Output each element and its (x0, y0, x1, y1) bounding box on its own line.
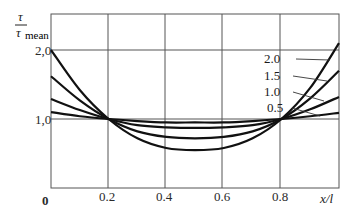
x-tick-0: 0 (42, 193, 49, 208)
x-tick-0-2: 0.2 (99, 189, 115, 204)
grid (51, 14, 339, 188)
y-label-denominator: τ (16, 25, 22, 40)
series-label-0-5: 0.5 (267, 100, 283, 115)
y-label-numerator: τ (18, 9, 24, 24)
x-axis-label: x/l (319, 191, 333, 206)
series-label-1-0: 1.0 (264, 84, 280, 99)
series-label-2-0: 2.0 (264, 51, 280, 66)
series-label-1-5: 1.5 (264, 68, 280, 83)
y-tick-2: 2,0 (35, 43, 51, 58)
x-tick-0-8: 0.8 (272, 189, 288, 204)
chart: 2.0 1.5 1.0 0.5 τ τ mean 2,0 1,0 0 0.2 0… (0, 0, 354, 212)
curves (51, 43, 339, 150)
y-label-subscript: mean (25, 29, 49, 41)
x-tick-0-6: 0.6 (214, 189, 231, 204)
x-tick-0-4: 0.4 (156, 189, 173, 204)
plot-frame (51, 14, 339, 188)
curve-2-0 (51, 43, 339, 150)
y-tick-1: 1,0 (35, 112, 51, 127)
